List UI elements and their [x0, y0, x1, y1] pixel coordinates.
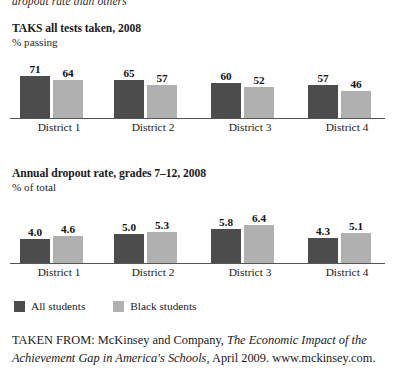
chart-1-title: TAKS all tests taken, 2008: [12, 22, 395, 35]
chart-2-value-d3-black: 6.4: [252, 212, 266, 224]
chart-2-value-d2-black: 5.3: [155, 219, 169, 231]
chart-2-bar-d3-all: 5.8: [211, 201, 241, 263]
chart-2-group-district-4: 4.3 5.1: [302, 201, 392, 263]
chart-annual-dropout-rate: Annual dropout rate, grades 7–12, 2008 %…: [0, 167, 395, 284]
chart-1-bar-d3-black: 52: [244, 56, 274, 118]
chart-1-bar-d4-black: 46: [341, 56, 371, 118]
chart-2-bar-rect-d3-black: [244, 225, 274, 263]
chart-1-bar-d2-all: 65: [114, 56, 144, 118]
chart-2-group-district-2: 5.0 5.3: [108, 201, 198, 263]
chart-2-bar-d1-black: 4.6: [53, 201, 83, 263]
chart-2-bar-rect-d4-all: [308, 238, 338, 263]
chart-1-group-district-1: 71 64: [14, 56, 104, 118]
legend-label-all-students: All students: [31, 300, 85, 312]
chart-2-label-district-2: District 2: [108, 266, 198, 278]
chart-1-value-d1-all: 71: [29, 63, 40, 75]
chart-2-bar-d4-all: 4.3: [308, 201, 338, 263]
chart-1-plot-area: 71 64 65 57 60 52: [0, 53, 395, 119]
chart-1-axis-line: [10, 118, 385, 119]
chart-2-bar-d4-black: 5.1: [341, 201, 371, 263]
source-attribution: TAKEN FROM: McKinsey and Company, The Ec…: [12, 332, 386, 367]
chart-2-axis-line: [10, 263, 385, 264]
legend-swatch-icon-black-students: [113, 301, 124, 312]
chart-1-label-district-3: District 3: [205, 121, 295, 133]
chart-2-bar-d2-all: 5.0: [114, 201, 144, 263]
chart-1-bar-rect-d3-black: [244, 87, 274, 118]
chart-2-value-d4-black: 5.1: [349, 220, 363, 232]
chart-1-group-district-3: 60 52: [205, 56, 295, 118]
chart-2-category-labels: District 1 District 2 District 3 Distric…: [0, 266, 395, 284]
chart-2-bar-d2-black: 5.3: [147, 201, 177, 263]
chart-1-bar-d2-black: 57: [147, 56, 177, 118]
chart-1-value-d2-black: 57: [156, 72, 167, 84]
chart-1-bar-rect-d2-black: [147, 85, 177, 118]
chart-1-group-district-4: 57 46: [302, 56, 392, 118]
chart-1-label-district-4: District 4: [302, 121, 392, 133]
legend-swatch-icon-all-students: [14, 301, 25, 312]
chart-2-value-d2-all: 5.0: [122, 221, 136, 233]
chart-1-bar-rect-d1-black: [53, 80, 83, 118]
chart-2-value-d4-all: 4.3: [316, 225, 330, 237]
chart-1-value-d1-black: 64: [62, 67, 73, 79]
chart-1-bar-rect-d2-all: [114, 80, 144, 118]
chart-2-plot-area: 4.0 4.6 5.0 5.3 5.8 6.4: [0, 198, 395, 264]
chart-2-bar-d1-all: 4.0: [20, 201, 50, 263]
chart-1-bar-d1-black: 64: [53, 56, 83, 118]
legend-item-all-students: All students: [14, 300, 85, 312]
chart-legend: All students Black students: [14, 300, 225, 312]
chart-2-group-district-1: 4.0 4.6: [14, 201, 104, 263]
chart-1-bar-rect-d1-all: [20, 76, 50, 118]
chart-2-group-district-3: 5.8 6.4: [205, 201, 295, 263]
chart-2-label-district-1: District 1: [14, 266, 104, 278]
chart-2-value-d1-black: 4.6: [61, 223, 75, 235]
chart-taks-all-tests: TAKS all tests taken, 2008 % passing 71 …: [0, 22, 395, 139]
chart-1-bar-rect-d4-all: [308, 85, 338, 118]
chart-2-bar-rect-d3-all: [211, 229, 241, 263]
chart-1-label-district-1: District 1: [14, 121, 104, 133]
chart-2-value-d3-all: 5.8: [219, 216, 233, 228]
legend-label-black-students: Black students: [130, 300, 196, 312]
chart-2-value-d1-all: 4.0: [28, 226, 42, 238]
chart-1-value-d4-all: 57: [317, 72, 328, 84]
chart-2-label-district-4: District 4: [302, 266, 392, 278]
chart-1-bar-d4-all: 57: [308, 56, 338, 118]
source-suffix: , April 2009. www.mckinsey.com.: [206, 351, 375, 365]
chart-2-bar-rect-d1-all: [20, 239, 50, 263]
chart-1-bar-rect-d4-black: [341, 91, 371, 118]
chart-1-value-d3-black: 52: [253, 74, 264, 86]
chart-2-bar-rect-d4-black: [341, 233, 371, 263]
chart-2-bar-rect-d2-all: [114, 234, 144, 263]
chart-2-label-district-3: District 3: [205, 266, 295, 278]
chart-2-bar-d3-black: 6.4: [244, 201, 274, 263]
chart-1-bar-d3-all: 60: [211, 56, 241, 118]
legend-item-black-students: Black students: [113, 300, 196, 312]
chart-1-bar-d1-all: 71: [20, 56, 50, 118]
chart-1-category-labels: District 1 District 2 District 3 Distric…: [0, 121, 395, 139]
chart-2-bar-rect-d2-black: [147, 232, 177, 263]
chart-2-title: Annual dropout rate, grades 7–12, 2008: [12, 167, 395, 180]
chart-2-bar-rect-d1-black: [53, 236, 83, 263]
chart-1-value-d3-all: 60: [220, 70, 231, 82]
chart-1-label-district-2: District 2: [108, 121, 198, 133]
chart-1-group-district-2: 65 57: [108, 56, 198, 118]
chart-1-value-d2-all: 65: [123, 67, 134, 79]
chart-2-subtitle: % of total: [12, 181, 395, 193]
source-prefix: TAKEN FROM: McKinsey and Company,: [12, 333, 227, 347]
chart-1-subtitle: % passing: [12, 36, 395, 48]
chart-1-bar-rect-d3-all: [211, 83, 241, 118]
caption-tail-text: dropout rate than others: [12, 0, 127, 7]
chart-1-value-d4-black: 46: [350, 78, 361, 90]
